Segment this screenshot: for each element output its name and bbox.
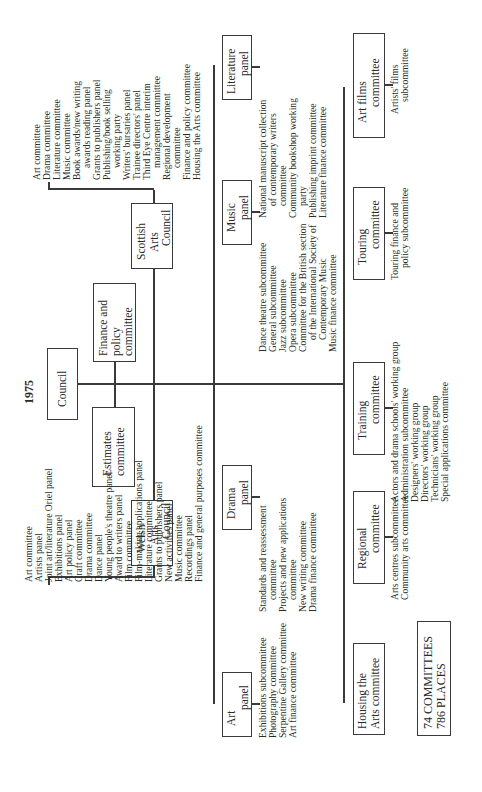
drama-panel-box: Drama panel (222, 465, 252, 530)
list-item: Special applications committee (440, 342, 450, 502)
list-item: Art finance committee (288, 623, 298, 738)
music-panel-box: Music panel (222, 180, 252, 245)
housing-the-arts-committee-box: Housing the Arts committee (353, 643, 385, 735)
drama-panel-label-1: Drama (225, 471, 238, 519)
art-panel-label-2: panel (238, 678, 251, 726)
art-films-committee-box: Art films committee (353, 33, 385, 138)
scottish-label-3: Council (160, 209, 173, 260)
finance-policy-box: Finance and policy committee (93, 283, 136, 362)
literature-panel-box: Literature panel (222, 35, 252, 100)
regional-label-2: committee (369, 497, 382, 569)
housing-label-2: Arts committee (369, 649, 382, 729)
art-films-label-1: Art films (356, 39, 369, 123)
scottish-subcommittee-list: Art committeeDrama committeeLiterature c… (32, 64, 202, 180)
art-panel-label-1: Art (225, 678, 238, 726)
touring-label-1: Touring (356, 193, 369, 265)
regional-subcommittee-list: Arts centres subcommitteeCommunity arts … (390, 495, 410, 600)
touring-committee-box: Touring committee (353, 187, 385, 280)
touring-label-2: committee (369, 193, 382, 265)
council-box: Council (47, 348, 78, 420)
literature-list-tick (252, 66, 260, 68)
regional-committee-box: Regional committee (353, 491, 385, 584)
literature-panel-label-2: panel (238, 41, 251, 94)
committees-connector (343, 87, 345, 703)
list-item: Finance and general purposes committee (194, 425, 204, 582)
list-item: Literature finance committee (318, 98, 328, 218)
literature-panel-label-1: Literature (225, 41, 238, 94)
summary-places-count: 786 PLACES (435, 628, 448, 729)
finance-estimates-connector (114, 362, 116, 407)
council-label: Council (56, 354, 69, 407)
drama-subcommittee-list: Standards and reassessmentcommitteeProje… (258, 498, 318, 612)
list-item: Drama finance committee (308, 498, 318, 612)
scottish-label-2: Arts (148, 209, 161, 260)
touring-subcommittee-list: Touring finance andpolicy subcommittee (390, 188, 410, 280)
scottish-label-1: Scottish (135, 209, 148, 260)
training-committee-box: Training committee (353, 362, 385, 455)
art-panel-box: Art panel (222, 672, 252, 737)
finance-policy-label-1: Finance and (97, 289, 110, 356)
art-films-label-2: committee (369, 39, 382, 123)
list-item: policy subcommittee (400, 188, 410, 280)
housing-label-1: Housing the (356, 649, 369, 729)
music-panel-label-1: Music (225, 186, 238, 232)
training-subcommittee-list: Actors and drama schools' working groupA… (390, 342, 450, 502)
training-label-1: Training (356, 368, 369, 440)
art-subcommittee-list: Exhibitions subcommitteePhotography comm… (258, 623, 298, 738)
list-item: Community arts committee (400, 495, 410, 600)
list-item: Housing the Arts committee (192, 64, 202, 180)
organization-chart: 1975 Council Finance and policy committe… (0, 0, 482, 792)
regional-label-1: Regional (356, 497, 369, 569)
music-panel-label-2: panel (238, 186, 251, 232)
main-spine-line (78, 383, 343, 385)
welsh-subcommittee-list: Art committeeArtists panelJoint art/lite… (24, 425, 204, 582)
panels-connector (213, 65, 215, 704)
literature-subcommittee-list: National manuscript collectionof contemp… (258, 98, 328, 218)
scottish-list-connector (48, 188, 154, 190)
training-label-2: committee (369, 368, 382, 440)
finance-policy-label-2: policy (110, 289, 123, 356)
drama-panel-label-2: panel (238, 471, 251, 519)
chart-year-title: 1975 (22, 380, 37, 404)
summary-box: 74 COMMITTEES 786 PLACES (417, 621, 451, 736)
music-subcommittee-list: Dance theatre subcommitteeGeneral subcom… (258, 224, 338, 352)
scottish-list-tick (48, 182, 50, 190)
art-films-subcommittee-list: Artists' filmssubcommittee (390, 48, 410, 114)
scottish-arts-council-box: Scottish Arts Council (131, 203, 173, 269)
finance-policy-label-3: committee (122, 289, 135, 356)
list-item: Music finance committee (328, 224, 338, 352)
list-item: subcommittee (400, 48, 410, 114)
